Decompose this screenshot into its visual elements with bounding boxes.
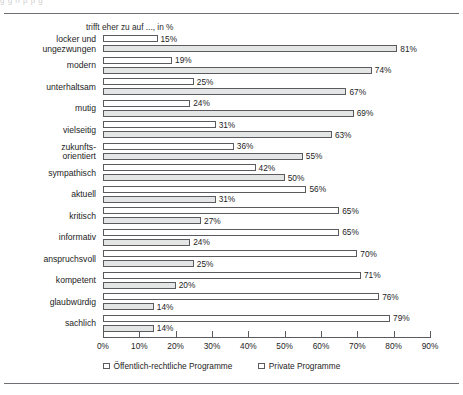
category-label: glaubwürdig — [0, 292, 99, 314]
x-axis-tick-label: 20% — [167, 341, 184, 351]
x-axis-tick-label: 40% — [240, 341, 257, 351]
category-label: unterhaltsam — [0, 77, 99, 99]
bar-value-public: 15% — [161, 35, 178, 43]
x-axis-tick — [357, 331, 358, 337]
bar-value-private: 14% — [157, 303, 174, 311]
category-label: kompetent — [0, 271, 99, 293]
bar-value-private: 63% — [335, 131, 352, 139]
category-label-line: informativ — [59, 233, 96, 243]
legend-item-private: Private Programme — [258, 361, 340, 371]
bar-row: 65%24% — [103, 228, 430, 250]
bar-value-public: 36% — [237, 142, 254, 150]
bar-public[interactable] — [103, 293, 379, 300]
category-label: sachlich — [0, 314, 99, 336]
bar-value-public: 71% — [364, 271, 381, 279]
category-label: vielseitig — [0, 120, 99, 142]
bar-value-public: 56% — [309, 185, 326, 193]
bar-private[interactable] — [103, 217, 201, 224]
bar-row: 79%14% — [103, 314, 430, 336]
bar-rows: 15%81%19%74%25%67%24%69%31%63%36%55%42%5… — [103, 34, 430, 335]
bar-value-public: 24% — [193, 99, 210, 107]
bar-private[interactable] — [103, 110, 354, 117]
bar-row: 31%63% — [103, 120, 430, 142]
bar-public[interactable] — [103, 315, 390, 322]
x-axis-tick-label: 80% — [385, 341, 402, 351]
bar-public[interactable] — [103, 121, 216, 128]
x-axis-tick — [285, 331, 286, 337]
bar-private[interactable] — [103, 282, 176, 289]
bar-value-private: 25% — [197, 260, 214, 268]
bar-row: 71%20% — [103, 271, 430, 293]
bar-public[interactable] — [103, 100, 190, 107]
category-label-line: kritisch — [69, 212, 96, 222]
bar-private[interactable] — [103, 325, 154, 332]
bar-private[interactable] — [103, 88, 346, 95]
bar-private[interactable] — [103, 239, 190, 246]
bar-value-private: 55% — [306, 152, 323, 160]
x-axis-tick-label: 60% — [313, 341, 330, 351]
x-axis-tick — [212, 331, 213, 337]
bar-row: 42%50% — [103, 163, 430, 185]
bar-private[interactable] — [103, 196, 216, 203]
bar-chart-figure: ḡ ḡ ṅ p p g trifft eher zu auf ..., in %… — [0, 0, 463, 395]
category-label: informativ — [0, 228, 99, 250]
bar-public[interactable] — [103, 78, 194, 85]
x-axis-tick — [139, 331, 140, 337]
category-label-line: vielseitig — [63, 126, 96, 136]
bar-public[interactable] — [103, 186, 306, 193]
bar-public[interactable] — [103, 250, 357, 257]
legend-label-public: Öffentlich-rechtliche Programme — [114, 361, 233, 371]
bar-row: 15%81% — [103, 34, 430, 56]
bar-value-public: 42% — [259, 164, 276, 172]
category-label-line: anspruchsvoll — [43, 255, 96, 265]
bar-row: 36%55% — [103, 142, 430, 164]
bar-public[interactable] — [103, 57, 172, 64]
bar-private[interactable] — [103, 45, 397, 52]
bar-public[interactable] — [103, 164, 256, 171]
x-axis-tick-label: 0% — [97, 341, 109, 351]
bar-value-private: 31% — [219, 195, 236, 203]
x-axis-tick — [248, 331, 249, 337]
bar-value-public: 65% — [342, 207, 359, 215]
category-label: aktuell — [0, 185, 99, 207]
category-label: anspruchsvoll — [0, 249, 99, 271]
bar-private[interactable] — [103, 67, 372, 74]
category-label-line: glaubwürdig — [50, 298, 96, 308]
bottom-divider-rule — [4, 383, 459, 384]
bar-public[interactable] — [103, 35, 158, 42]
x-axis-tick-label: 50% — [276, 341, 293, 351]
bar-value-public: 65% — [342, 228, 359, 236]
x-axis-tick-label: 10% — [131, 341, 148, 351]
bar-value-private: 67% — [349, 88, 366, 96]
legend-item-public: Öffentlich-rechtliche Programme — [103, 361, 232, 371]
bar-public[interactable] — [103, 272, 361, 279]
category-label: kritisch — [0, 206, 99, 228]
bar-row: 25%67% — [103, 77, 430, 99]
category-label-line: kompetent — [56, 276, 96, 286]
bar-private[interactable] — [103, 260, 194, 267]
bar-row: 76%14% — [103, 292, 430, 314]
x-axis-tick-label: 90% — [422, 341, 439, 351]
chart-legend: Öffentlich-rechtliche Programme Private … — [103, 361, 433, 371]
bar-private[interactable] — [103, 131, 332, 138]
category-label-line: orientiert — [63, 152, 96, 162]
bar-private[interactable] — [103, 174, 285, 181]
bar-row: 19%74% — [103, 56, 430, 78]
page-bleed-text: ḡ ḡ ṅ p p g — [0, 0, 463, 12]
bar-value-public: 76% — [382, 293, 399, 301]
bar-value-private: 74% — [375, 66, 392, 74]
category-label: sympathisch — [0, 163, 99, 185]
white-square-icon — [258, 363, 265, 370]
bar-value-public: 79% — [393, 314, 410, 322]
bar-public[interactable] — [103, 229, 339, 236]
bar-value-private: 14% — [157, 324, 174, 332]
bar-value-private: 50% — [288, 174, 305, 182]
bar-private[interactable] — [103, 303, 154, 310]
x-axis-line — [103, 337, 431, 338]
category-label-line: modern — [67, 61, 96, 71]
bar-value-private: 69% — [357, 109, 374, 117]
bar-public[interactable] — [103, 207, 339, 214]
bar-value-private: 81% — [400, 45, 417, 53]
bar-private[interactable] — [103, 153, 303, 160]
bar-public[interactable] — [103, 143, 234, 150]
